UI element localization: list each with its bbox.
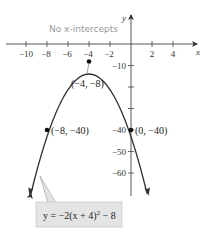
svg-text:−4: −4 — [83, 49, 93, 59]
parabola-curve — [31, 74, 147, 194]
svg-text:4: 4 — [171, 49, 176, 59]
x-tick-labels: −10 −8 −6 −4 −2 2 4 — [19, 49, 176, 59]
right-arrowhead-icon — [145, 188, 151, 197]
svg-text:2: 2 — [150, 49, 155, 59]
equation-callout-pointer — [40, 176, 56, 203]
svg-text:−60: −60 — [112, 168, 127, 178]
svg-text:−10: −10 — [112, 61, 127, 71]
y-axis-label: y — [121, 13, 126, 23]
svg-text:−40: −40 — [112, 125, 127, 135]
no-x-intercepts-annotation: No x-intercepts — [49, 24, 118, 34]
svg-text:−8: −8 — [41, 49, 51, 59]
left-point — [45, 128, 50, 133]
left-arrowhead-icon — [28, 188, 33, 197]
svg-text:−10: −10 — [19, 49, 34, 59]
svg-text:−2: −2 — [104, 49, 114, 59]
y-intercept-point — [129, 128, 134, 133]
parabola-chart: No x-intercepts x y −10 −8 −6 −4 −2 2 4 … — [0, 0, 200, 234]
equation-label: y = −2(x + 4)2 − 8 — [43, 209, 116, 222]
svg-text:−6: −6 — [62, 49, 72, 59]
y-intercept-label: (0, −40) — [135, 125, 167, 137]
vertex-leader-line — [87, 63, 89, 74]
vertex-label: (−4, −8) — [71, 78, 104, 90]
svg-text:−50: −50 — [112, 147, 127, 157]
x-axis-label: x — [195, 47, 200, 57]
left-point-label: (−8, −40) — [51, 125, 89, 137]
